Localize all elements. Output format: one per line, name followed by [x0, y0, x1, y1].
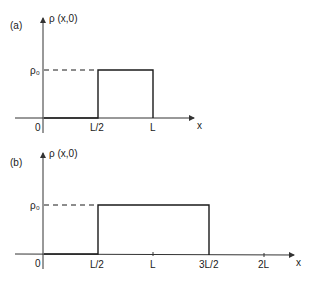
x-axis-label: x [197, 120, 202, 131]
origin-label: 0 [35, 122, 41, 133]
tick-label-l: L [150, 122, 156, 133]
level-label: ρ₀ [30, 200, 40, 211]
tick-label-l-half: L/2 [90, 122, 104, 133]
x-axis-label: x [296, 257, 301, 268]
tick-label-l: L [150, 259, 156, 270]
y-axis-label: ρ (x,0) [49, 148, 77, 159]
pulse-shape [44, 205, 209, 255]
panel-label: (b) [10, 157, 22, 168]
tick-label-2l: 2L [258, 259, 270, 270]
panel-a: (a) ρ (x,0) x ρ₀ 0 L/2 L [10, 13, 202, 133]
panel-b: (b) ρ (x,0) x ρ₀ 0 L/2 L 3L/2 2L [10, 148, 301, 270]
pulse-shape [44, 70, 153, 118]
level-label: ρ₀ [30, 65, 40, 76]
tick-label-3l-half: 3L/2 [199, 259, 219, 270]
y-axis-label: ρ (x,0) [49, 13, 77, 24]
origin-label: 0 [35, 258, 41, 269]
tick-label-l-half: L/2 [90, 259, 104, 270]
diagram: (a) ρ (x,0) x ρ₀ 0 L/2 L (b) ρ (x,0) x ρ… [0, 0, 315, 287]
panel-label: (a) [10, 20, 22, 31]
